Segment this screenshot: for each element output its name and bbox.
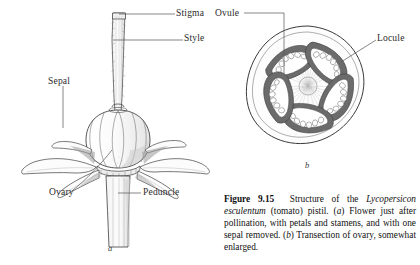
label-ovary: Ovary (49, 187, 74, 197)
flower-drawing (22, 13, 210, 247)
figure-caption: Figure 9.15 Structure of the Lycopersico… (224, 193, 416, 253)
label-peduncle: Peduncle (143, 187, 179, 197)
style-shape (111, 13, 125, 113)
label-stigma: Stigma (176, 8, 204, 18)
peduncle-shape (106, 176, 130, 247)
label-sepal: Sepal (48, 76, 70, 86)
panel-b-letter: b (305, 160, 309, 170)
label-ovule: Ovule (215, 8, 239, 18)
caption-figure-number: Figure 9.15 (224, 194, 274, 204)
label-style: Style (184, 33, 205, 43)
panel-a-letter: a (108, 243, 112, 253)
caption-text-2: (tomato) pistil. ( (266, 206, 337, 216)
ovary-shape (86, 104, 150, 168)
transection-drawing (246, 26, 364, 144)
label-locule: Locule (377, 33, 405, 43)
caption-text-1: Structure of the (290, 194, 366, 204)
